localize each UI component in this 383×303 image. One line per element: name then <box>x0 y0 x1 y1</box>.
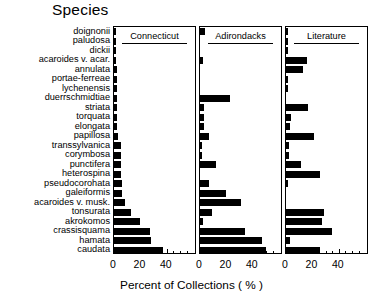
bar <box>114 199 125 206</box>
axis-tick-minor <box>134 251 135 254</box>
bar <box>114 152 121 159</box>
axis-tick-minor <box>332 251 333 254</box>
bar <box>286 209 324 216</box>
bar <box>286 114 291 121</box>
panel-title-rule <box>122 43 187 44</box>
page-title: Species <box>52 1 109 19</box>
bar <box>286 133 314 140</box>
bar <box>200 180 209 187</box>
axis-tick-minor <box>273 251 274 254</box>
bar <box>200 57 203 64</box>
bar <box>286 142 289 149</box>
panel-title-literature: Literature <box>286 31 367 41</box>
x-tick-label: 40 <box>240 258 264 270</box>
axis-tick-minor <box>207 251 208 254</box>
panel-title-rule <box>208 43 273 44</box>
axis-tick-minor <box>359 251 360 254</box>
bar <box>114 218 140 225</box>
bar <box>286 104 308 111</box>
axis-tick-major <box>167 249 168 254</box>
bar <box>114 123 117 130</box>
bar <box>114 180 122 187</box>
bar <box>200 237 262 244</box>
axis-tick-minor <box>319 251 320 254</box>
bar <box>200 104 204 111</box>
panel-title-adirondacks: Adirondacks <box>200 31 281 41</box>
x-axis-title: Percent of Collections ( % ) <box>0 278 383 292</box>
bar <box>200 228 245 235</box>
bar <box>200 142 202 149</box>
axis-tick-major <box>339 249 340 254</box>
bar <box>286 123 290 130</box>
axis-tick-major <box>312 249 313 254</box>
bar <box>286 66 303 73</box>
bar <box>286 47 288 54</box>
bar <box>286 218 322 225</box>
panel-literature: Literature <box>285 26 368 254</box>
axis-tick-minor <box>233 251 234 254</box>
bar <box>200 152 202 159</box>
axis-tick-minor <box>187 251 188 254</box>
axis-tick-minor <box>180 251 181 254</box>
plot-area-adirondacks <box>200 27 281 253</box>
bar <box>114 47 116 54</box>
axis-tick-minor <box>154 251 155 254</box>
bar <box>286 180 288 187</box>
bar <box>200 218 203 225</box>
bar <box>200 133 209 140</box>
bar <box>114 95 117 102</box>
axis-tick-minor <box>266 251 267 254</box>
bar <box>286 161 301 168</box>
bar <box>114 228 150 235</box>
bar <box>286 237 290 244</box>
axis-tick-minor <box>345 251 346 254</box>
bar <box>114 190 122 197</box>
axis-tick-major <box>140 249 141 254</box>
bar <box>286 57 307 64</box>
axis-tick-minor <box>220 251 221 254</box>
bar <box>114 104 117 111</box>
bar <box>200 95 230 102</box>
axis-tick-minor <box>299 251 300 254</box>
axis-tick-minor <box>352 251 353 254</box>
axis-tick-minor <box>259 251 260 254</box>
bar <box>114 142 121 149</box>
bar <box>114 171 121 178</box>
bar <box>114 85 117 92</box>
axis-tick-minor <box>213 251 214 254</box>
x-tick-label: 40 <box>154 258 178 270</box>
chart-figure: Species doignoniipaludosadickiiacaroides… <box>0 0 383 303</box>
x-tick-label: 40 <box>326 258 350 270</box>
bar <box>286 76 288 83</box>
axis-tick-major <box>286 249 287 254</box>
axis-tick-minor <box>293 251 294 254</box>
bar <box>114 209 131 216</box>
axis-tick-major <box>226 249 227 254</box>
bar <box>114 133 118 140</box>
axis-tick-minor <box>127 251 128 254</box>
x-tick-label: 0 <box>101 258 125 270</box>
axis-tick-major <box>200 249 201 254</box>
x-tick-label: 0 <box>187 258 211 270</box>
bar <box>200 209 212 216</box>
axis-tick-minor <box>240 251 241 254</box>
species-axis-labels: doignoniipaludosadickiiacaroides v. acar… <box>0 26 112 254</box>
bar <box>200 199 241 206</box>
bar <box>286 247 320 254</box>
axis-tick-major <box>253 249 254 254</box>
bar <box>114 114 117 121</box>
axis-tick-minor <box>147 251 148 254</box>
axis-tick-minor <box>173 251 174 254</box>
bar <box>114 161 121 168</box>
species-label: caudata <box>77 244 110 254</box>
x-tick-label: 20 <box>213 258 237 270</box>
bar <box>200 123 204 130</box>
bar <box>286 85 288 92</box>
axis-tick-minor <box>306 251 307 254</box>
bar <box>114 76 117 83</box>
axis-tick-minor <box>121 251 122 254</box>
bar <box>286 228 332 235</box>
bar <box>114 237 151 244</box>
axis-tick-minor <box>326 251 327 254</box>
x-tick-label: 20 <box>127 258 151 270</box>
